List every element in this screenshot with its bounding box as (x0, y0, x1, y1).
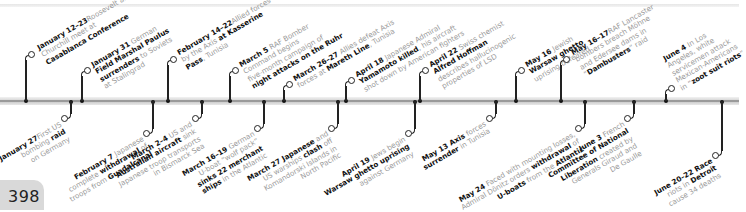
event-connector (263, 101, 265, 124)
event-label: June 20–22 Raceriots in Detroitcause 34 … (653, 157, 723, 212)
event-label: June 4 In LosAngeles, whiteservicemen at… (662, 20, 746, 93)
event-marker-circle (192, 115, 199, 122)
event-connector (167, 65, 169, 101)
event-connector (495, 101, 497, 114)
event-connector (414, 101, 416, 129)
event-label: June 3 FrenchCommittee of NationalLibera… (543, 120, 643, 202)
event-label: January 27First USbombing raidon Germany (0, 120, 71, 177)
event-connector (25, 60, 27, 101)
event-connector (152, 101, 154, 129)
event-marker-circle (143, 130, 150, 137)
event-connector (345, 86, 347, 101)
event-marker-circle (518, 67, 525, 74)
timeline-axis-line (0, 100, 739, 102)
event-marker-circle (232, 67, 239, 74)
event-marker-circle (422, 67, 429, 74)
event-connector (633, 101, 635, 114)
event-label: May 13 Axis forcessurrender in Tunisia (418, 120, 492, 172)
event-connector (419, 76, 421, 101)
event-connector (665, 94, 667, 101)
event-connector (721, 101, 723, 151)
event-marker-circle (170, 56, 177, 63)
event-marker-circle (84, 67, 91, 74)
event-connector (70, 101, 72, 114)
event-marker-circle (563, 56, 570, 63)
event-marker-circle (348, 77, 355, 84)
event-marker-circle (405, 130, 412, 137)
event-marker-circle (624, 115, 631, 122)
event-connector (81, 76, 83, 101)
event-marker-circle (286, 81, 293, 88)
event-connector (515, 76, 517, 101)
event-label: May 16–17RAF Lancasterbombers breach Möh… (570, 3, 668, 79)
event-connector (283, 90, 285, 101)
event-marker-circle (28, 51, 35, 58)
event-connector (201, 101, 203, 114)
event-marker-circle (575, 125, 582, 132)
page-number: 398 (8, 187, 40, 206)
event-marker-circle (668, 85, 675, 92)
event-marker-circle (61, 115, 68, 122)
event-marker-circle (712, 152, 719, 159)
event-marker-circle (328, 125, 335, 132)
event-connector (560, 65, 562, 101)
event-marker-circle (254, 125, 261, 132)
event-connector (229, 76, 231, 101)
event-connector (584, 101, 586, 124)
event-marker-circle (486, 115, 493, 122)
event-connector (337, 101, 339, 124)
